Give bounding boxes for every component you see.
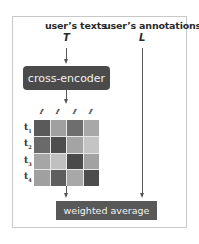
texts-label: user’s texts (45, 20, 106, 31)
matrix-cell-3-4 (84, 154, 100, 170)
matrix-cell-4-4 (84, 170, 100, 186)
matrix-cell-1-4 (84, 120, 100, 136)
matrix-cell-1-1 (34, 120, 50, 136)
matrix-cell-4-2 (51, 170, 67, 186)
matrix-cell-3-1 (34, 154, 50, 170)
row-label-t1: t1 (24, 122, 32, 134)
annotations-arrow-line (142, 48, 143, 194)
matrix-cell-1-3 (67, 120, 83, 136)
matrix-cell-2-3 (67, 137, 83, 153)
annotations-symbol: L (139, 32, 145, 43)
matrix-cell-2-4 (84, 137, 100, 153)
matrix-cell-2-1 (34, 137, 50, 153)
row-label-t4: t4 (24, 171, 32, 183)
row-label-t2: t2 (24, 138, 32, 150)
matrix-cell-4-1 (34, 170, 50, 186)
texts-symbol: T (63, 32, 70, 43)
matrix-cell-1-2 (51, 120, 67, 136)
annotations-label: user’s annotations (104, 20, 199, 31)
annotations-arrow-head-icon (140, 193, 144, 198)
weighted-average-box: weighted average (56, 201, 157, 220)
matrix-cell-4-3 (67, 170, 83, 186)
matrix-arrow-head-icon (64, 193, 68, 198)
cross-encoder-box: cross-encoder (23, 66, 110, 90)
matrix-cell-3-2 (51, 154, 67, 170)
encoder-arrow-head-icon (64, 99, 68, 104)
similarity-matrix (34, 120, 99, 186)
row-label-t3: t3 (24, 155, 32, 167)
texts-arrow-head-icon (64, 59, 68, 64)
matrix-cell-3-3 (67, 154, 83, 170)
matrix-cell-2-2 (51, 137, 67, 153)
